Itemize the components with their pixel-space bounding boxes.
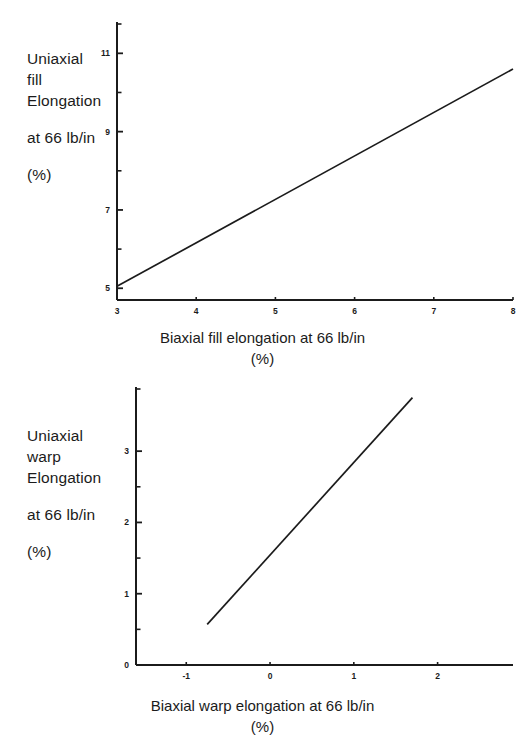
y-axis-label-line: (%) [27, 164, 101, 185]
x-axis-caption-unit: (%) [0, 716, 525, 737]
warp-elongation-figure: -10120123 Uniaxial warp Elongation at 66… [0, 370, 525, 749]
y-axis-label: Uniaxial fill Elongation at 66 lb/in (%) [27, 48, 101, 185]
x-tick-label: 2 [435, 671, 440, 681]
x-axis-caption-text: Biaxial warp elongation at 66 lb/in [151, 697, 374, 714]
y-tick-label: 2 [124, 517, 129, 527]
y-axis-label-line: warp [27, 446, 101, 467]
x-tick-label: 1 [351, 671, 356, 681]
y-tick-label: 5 [105, 283, 110, 293]
y-tick-label: 7 [105, 205, 110, 215]
x-axis-caption: Biaxial warp elongation at 66 lb/in (%) [0, 695, 525, 737]
x-tick-label: 3 [115, 306, 120, 316]
axis-ticks [136, 389, 438, 665]
y-axis-label-line: Uniaxial [27, 425, 101, 446]
y-tick-label: 1 [124, 589, 129, 599]
data-series-line [207, 398, 412, 625]
y-tick-label: 9 [105, 127, 110, 137]
x-tick-label: 8 [511, 306, 516, 316]
x-axis-caption-text: Biaxial fill elongation at 66 lb/in [160, 329, 365, 346]
y-tick-label: 3 [124, 446, 129, 456]
x-tick-label: 7 [431, 306, 436, 316]
y-axis-label-line: Uniaxial [27, 48, 101, 69]
y-axis-label-line: Elongation [27, 467, 101, 488]
axis-ticks [117, 24, 513, 300]
x-tick-label: 6 [352, 306, 357, 316]
y-axis-label-line: fill [27, 69, 101, 90]
data-series-line [117, 69, 513, 286]
x-tick-label: -1 [182, 671, 190, 681]
x-tick-label: 4 [194, 306, 199, 316]
fill-elongation-figure: 34567857911 Uniaxial fill Elongation at … [0, 0, 525, 375]
axis-tick-labels: -10120123 [124, 446, 440, 681]
x-axis-caption: Biaxial fill elongation at 66 lb/in (%) [0, 327, 525, 369]
y-axis-label-line: at 66 lb/in [27, 127, 101, 148]
y-axis-label-line: at 66 lb/in [27, 504, 101, 525]
x-axis-caption-unit: (%) [0, 348, 525, 369]
y-axis-label-line: (%) [27, 541, 101, 562]
y-axis-label: Uniaxial warp Elongation at 66 lb/in (%) [27, 425, 101, 562]
x-tick-label: 5 [273, 306, 278, 316]
y-tick-label: 0 [124, 660, 129, 670]
y-axis-label-line: Elongation [27, 90, 101, 111]
x-tick-label: 0 [268, 671, 273, 681]
y-tick-label: 11 [101, 48, 110, 58]
